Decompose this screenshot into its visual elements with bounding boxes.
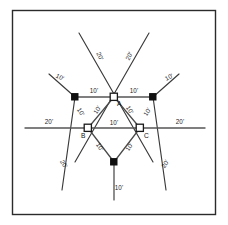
station-dot-upper-left[interactable] bbox=[72, 94, 78, 100]
diagram-canvas: A B C 20' 20' 10' 10' 10' 10' 10' 10' 10… bbox=[0, 0, 228, 225]
dimension-segment-bc: 10' bbox=[110, 119, 119, 126]
vertex-node-c[interactable] bbox=[136, 124, 143, 131]
vertex-node-b[interactable] bbox=[84, 124, 91, 131]
station-dot-bottom[interactable] bbox=[111, 159, 117, 165]
dimension-bottom-stub: 10' bbox=[115, 184, 124, 191]
vertex-label-c: C bbox=[144, 132, 149, 139]
station-dot-upper-right[interactable] bbox=[150, 94, 156, 100]
survey-diagram: A B C 20' 20' 10' 10' 10' 10' 10' 10' 10… bbox=[0, 0, 228, 225]
vertex-label-a: A bbox=[117, 100, 122, 107]
dimension-right-extension: 20' bbox=[176, 118, 185, 125]
dimension-left-extension: 20' bbox=[45, 118, 54, 125]
vertex-label-b: B bbox=[81, 132, 86, 139]
dimension-top-span-left: 10' bbox=[90, 87, 99, 94]
dimension-top-span-right: 10' bbox=[130, 87, 139, 94]
